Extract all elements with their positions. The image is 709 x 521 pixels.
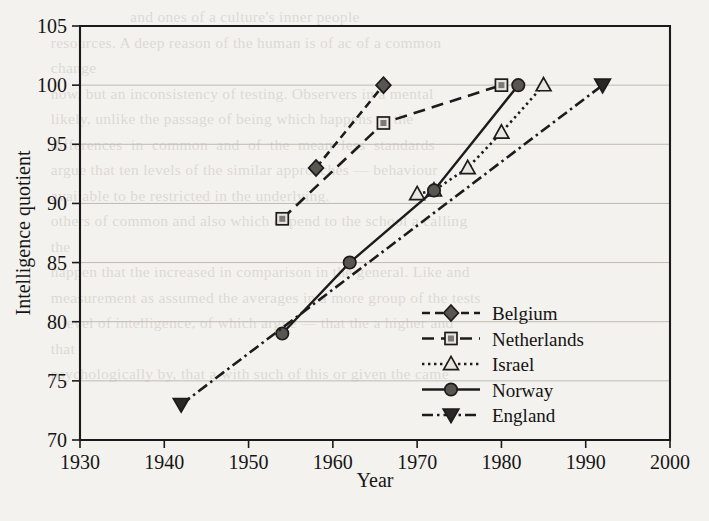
chart-svg: 19301940195019601970198019902000 7075808… xyxy=(0,0,709,521)
data-point-marker xyxy=(410,186,425,199)
x-tick-label: 1970 xyxy=(397,451,437,473)
y-axis-title: Intelligence quotient xyxy=(12,150,35,315)
data-point-marker-core xyxy=(380,120,386,126)
y-tick-label: 100 xyxy=(37,74,67,96)
data-point-marker xyxy=(512,79,524,91)
legend-label: Norway xyxy=(492,380,554,401)
y-tick-label: 85 xyxy=(47,252,67,274)
series-line xyxy=(316,85,383,168)
data-series xyxy=(173,77,610,412)
data-point-marker xyxy=(445,383,457,395)
series-line xyxy=(282,85,518,333)
series-line xyxy=(282,85,501,219)
x-tick-label: 1940 xyxy=(144,451,184,473)
legend-item-norway: Norway xyxy=(422,380,554,401)
y-tick-label: 105 xyxy=(37,15,67,37)
series-israel xyxy=(410,78,551,200)
x-axis-title: Year xyxy=(357,469,394,491)
y-axis-ticks xyxy=(72,26,80,440)
x-tick-label: 1950 xyxy=(229,451,269,473)
x-tick-label: 1930 xyxy=(60,451,100,473)
series-line xyxy=(181,85,602,404)
y-tick-label: 70 xyxy=(47,429,67,451)
y-tick-label: 80 xyxy=(47,311,67,333)
data-point-marker-core xyxy=(498,82,504,88)
series-netherlands xyxy=(276,79,507,225)
legend-item-netherlands: Netherlands xyxy=(422,329,584,350)
data-point-marker-core xyxy=(279,216,285,222)
x-tick-label: 1990 xyxy=(566,451,606,473)
data-point-marker xyxy=(344,256,356,268)
legend-label: Netherlands xyxy=(492,329,584,350)
legend-label: Israel xyxy=(492,354,534,375)
data-point-marker xyxy=(376,77,391,93)
y-axis-tick-labels: 707580859095100105 xyxy=(37,15,67,451)
legend-item-israel: Israel xyxy=(422,354,534,375)
chart-figure: 19301940195019601970198019902000 7075808… xyxy=(0,0,709,521)
y-tick-label: 90 xyxy=(47,192,67,214)
x-axis-ticks xyxy=(80,440,670,448)
data-point-marker xyxy=(444,356,459,369)
data-point-marker xyxy=(173,399,189,413)
legend-item-belgium: Belgium xyxy=(422,303,558,324)
y-tick-label: 95 xyxy=(47,133,67,155)
data-point-marker xyxy=(536,78,551,91)
legend-label: Belgium xyxy=(492,303,558,324)
y-tick-label: 75 xyxy=(47,370,67,392)
data-point-marker-core xyxy=(448,336,454,342)
legend-label: England xyxy=(492,405,556,426)
data-point-marker xyxy=(460,160,475,173)
legend-item-england: England xyxy=(422,405,556,426)
data-point-marker xyxy=(444,305,459,321)
data-point-marker xyxy=(428,184,440,196)
x-tick-label: 1980 xyxy=(481,451,521,473)
x-tick-label: 2000 xyxy=(650,451,690,473)
data-point-marker xyxy=(276,327,288,339)
x-tick-label: 1960 xyxy=(313,451,353,473)
axis-frame xyxy=(80,26,670,440)
series-england xyxy=(173,79,610,412)
